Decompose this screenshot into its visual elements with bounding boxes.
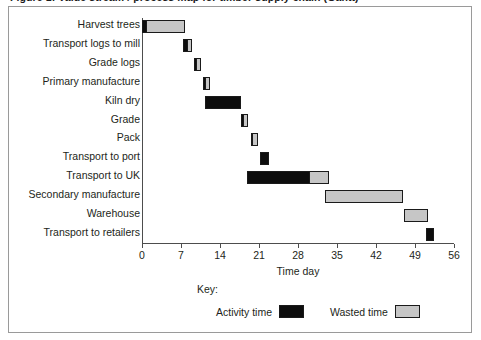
gantt-bar-activity-segment	[247, 171, 311, 184]
legend-entry-wasted: Wasted time	[330, 305, 420, 318]
x-axis-tick-label: 7	[178, 249, 184, 261]
x-axis-tick	[376, 244, 377, 248]
category-label: Transport logs to mill	[43, 38, 140, 49]
gantt-bar-activity-segment	[205, 96, 241, 109]
legend-entry-activity: Activity time	[216, 305, 304, 318]
x-axis-tick	[220, 244, 221, 248]
gantt-bar	[183, 39, 192, 52]
category-label: Primary manufacture	[43, 76, 140, 87]
x-axis-tick	[337, 244, 338, 248]
category-label: Kiln dry	[105, 95, 140, 106]
x-axis-tick-label: 35	[331, 249, 343, 261]
gantt-bar-activity-segment	[426, 228, 434, 241]
gantt-bar-wasted-segment	[187, 39, 191, 52]
category-label: Transport to UK	[66, 170, 140, 181]
gantt-bar	[194, 58, 201, 71]
legend-title: Key:	[197, 283, 218, 295]
gantt-bar	[426, 228, 434, 241]
gantt-bar-wasted-segment	[196, 58, 201, 71]
gantt-bar-wasted-segment	[252, 133, 258, 146]
gantt-bar	[404, 209, 428, 222]
category-label: Grade logs	[89, 57, 140, 68]
x-axis-tick	[298, 244, 299, 248]
legend-swatch-wasted	[395, 305, 420, 318]
x-axis-tick	[454, 244, 455, 248]
x-axis-tick	[259, 244, 260, 248]
gantt-bar	[251, 133, 258, 146]
gantt-bar	[325, 190, 402, 203]
category-label: Pack	[117, 132, 140, 143]
x-axis-tick	[142, 244, 143, 248]
legend-entry-label: Activity time	[216, 306, 272, 318]
x-axis-tick-label: 28	[292, 249, 304, 261]
gantt-bar	[241, 114, 248, 127]
legend-entry-label: Wasted time	[330, 306, 388, 318]
gantt-bar-wasted-segment	[404, 209, 428, 222]
gantt-bar	[260, 152, 269, 165]
x-axis-tick	[415, 244, 416, 248]
category-label: Transport to port	[63, 151, 140, 162]
x-axis-title: Time day	[142, 265, 454, 277]
y-axis-line	[142, 18, 143, 244]
gantt-bar-wasted-segment	[325, 190, 402, 203]
x-axis-tick-label: 49	[409, 249, 421, 261]
gantt-bar	[247, 171, 329, 184]
category-label: Harvest trees	[78, 19, 140, 30]
category-label: Grade	[111, 114, 140, 125]
gantt-bar	[203, 77, 210, 90]
gantt-bar-wasted-segment	[243, 114, 249, 127]
gantt-bar-wasted-segment	[309, 171, 329, 184]
gantt-chart: Harvest treesTransport logs to millGrade…	[0, 0, 481, 340]
gantt-bar-wasted-segment	[146, 20, 185, 33]
category-label: Transport to retailers	[44, 227, 140, 238]
gantt-bar-wasted-segment	[205, 77, 210, 90]
category-axis-labels: Harvest treesTransport logs to millGrade…	[14, 18, 140, 244]
x-axis-tick-label: 56	[448, 249, 460, 261]
category-label: Warehouse	[87, 208, 140, 219]
gantt-bar-activity-segment	[260, 152, 269, 165]
legend-swatch-activity	[279, 305, 304, 318]
gantt-bar	[142, 20, 185, 33]
gantt-bar	[205, 96, 241, 109]
x-axis-tick-label: 0	[139, 249, 145, 261]
x-axis-tick-label: 14	[214, 249, 226, 261]
x-axis-tick-label: 42	[370, 249, 382, 261]
x-axis-tick	[181, 244, 182, 248]
category-label: Secondary manufacture	[29, 189, 140, 200]
x-axis-tick-label: 21	[253, 249, 265, 261]
